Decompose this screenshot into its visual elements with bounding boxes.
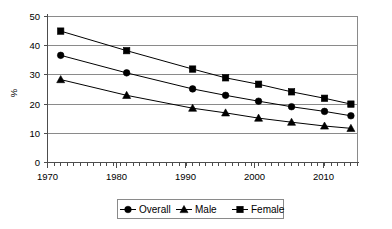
- x-tick-label-2000: 2000: [244, 171, 265, 182]
- data-point-female-1970[interactable]: [57, 28, 63, 34]
- data-point-overall-1990[interactable]: [189, 86, 196, 93]
- data-point-overall-2014[interactable]: [348, 112, 355, 119]
- data-point-overall-1970[interactable]: [57, 52, 64, 59]
- data-point-female-1980[interactable]: [123, 47, 129, 53]
- data-point-overall-1980[interactable]: [123, 70, 130, 77]
- y-tick-label-50: 50: [29, 11, 40, 22]
- y-axis-title: %: [8, 88, 19, 97]
- square-marker-icon: [237, 206, 243, 212]
- legend-label-female[interactable]: Female: [251, 204, 285, 215]
- data-point-female-1995[interactable]: [222, 75, 228, 81]
- data-point-female-2000[interactable]: [255, 81, 261, 87]
- line-chart: 50 40 30 20 10 0 % 1970 1980 1990 2000 2…: [0, 0, 392, 229]
- data-point-overall-2005[interactable]: [288, 103, 295, 110]
- y-tick-label-20: 20: [29, 99, 40, 110]
- data-point-female-2014[interactable]: [348, 101, 354, 107]
- legend-items: OverallMaleFemale: [120, 204, 285, 215]
- data-point-overall-1995[interactable]: [222, 92, 229, 99]
- data-point-female-2010[interactable]: [321, 95, 327, 101]
- data-point-overall-2000[interactable]: [255, 98, 262, 105]
- x-tick-label-1970: 1970: [37, 171, 58, 182]
- x-tick-label-2010: 2010: [313, 171, 334, 182]
- x-tick-label-1980: 1980: [106, 171, 127, 182]
- chart-legend: OverallMaleFemale: [118, 200, 285, 219]
- y-tick-label-10: 10: [29, 128, 40, 139]
- circle-marker-icon: [125, 206, 132, 213]
- legend-label-overall[interactable]: Overall: [139, 204, 171, 215]
- chart-container: 50 40 30 20 10 0 % 1970 1980 1990 2000 2…: [0, 0, 392, 229]
- y-tick-label-40: 40: [29, 40, 40, 51]
- legend-label-male[interactable]: Male: [195, 204, 217, 215]
- data-point-female-2005[interactable]: [288, 89, 294, 95]
- x-tick-label-1990: 1990: [175, 171, 196, 182]
- data-point-female-1990[interactable]: [189, 66, 195, 72]
- data-point-overall-2010[interactable]: [321, 108, 328, 115]
- y-tick-label-30: 30: [29, 69, 40, 80]
- y-tick-label-0: 0: [35, 157, 40, 168]
